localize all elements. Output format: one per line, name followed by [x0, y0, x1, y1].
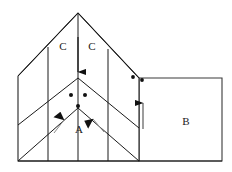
panel-b-region — [139, 78, 222, 161]
folded-panel-diagram — [0, 0, 232, 172]
label-c-left: C — [59, 41, 66, 52]
dot-valley-right — [83, 93, 87, 97]
dot-panel-b-top — [140, 78, 144, 82]
dot-valley-left — [69, 93, 73, 97]
panel-b-outline — [139, 78, 222, 161]
label-b: B — [182, 116, 189, 127]
figure-container: C C A B — [0, 0, 232, 172]
dot-fold-outer — [131, 75, 135, 79]
dot-valley-low — [76, 104, 80, 108]
label-a: A — [75, 124, 83, 135]
label-c-right: C — [88, 41, 95, 52]
